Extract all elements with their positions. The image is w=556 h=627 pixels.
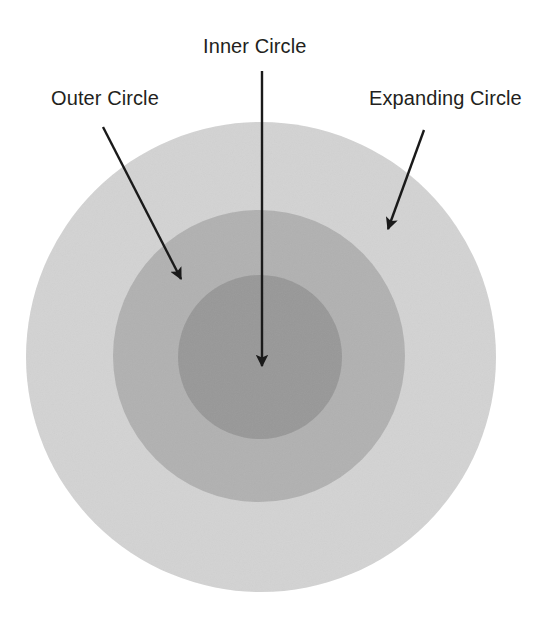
- inner-circle-shape: [178, 275, 342, 439]
- concentric-circles-diagram: Inner Circle Outer Circle Expanding Circ…: [0, 0, 556, 627]
- label-expanding-circle: Expanding Circle: [369, 87, 522, 110]
- label-inner-circle: Inner Circle: [203, 35, 306, 58]
- label-outer-circle: Outer Circle: [51, 87, 159, 110]
